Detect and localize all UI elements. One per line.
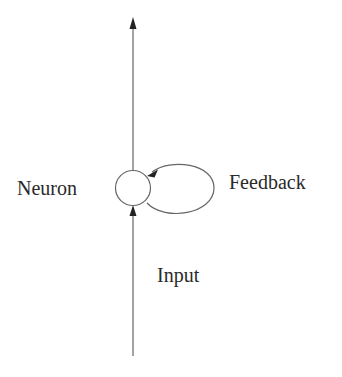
neuron-node [116, 171, 151, 206]
input-label: Input [157, 265, 199, 285]
output-arrow-icon [130, 17, 137, 29]
feedback-arrow-icon [147, 170, 158, 178]
input-arrow-icon [130, 205, 137, 216]
feedback-label: Feedback [229, 172, 306, 192]
neuron-label: Neuron [17, 178, 77, 198]
feedback-loop [147, 164, 214, 213]
